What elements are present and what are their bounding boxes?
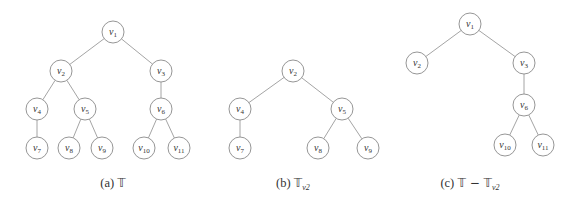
tree-panel-a: v1v2v3v4v5v6v7v8v9v10v11(a) 𝕋 xyxy=(26,21,190,190)
node-v4: v4 xyxy=(229,98,251,120)
node-v5: v5 xyxy=(74,98,96,120)
node-v1: v1 xyxy=(459,13,481,35)
edge-v1-v3 xyxy=(479,30,515,56)
node-v9: v9 xyxy=(91,137,113,159)
edge-v2-v4 xyxy=(43,80,55,99)
node-v6: v6 xyxy=(513,94,535,116)
node-v8: v8 xyxy=(58,137,80,159)
node-v6: v6 xyxy=(150,98,172,120)
edge-v2-v4 xyxy=(249,77,284,102)
caption-c: (c) 𝕋 − 𝕋v2 xyxy=(440,176,499,192)
node-v4: v4 xyxy=(26,98,48,120)
caption-b: (b) 𝕋v2 xyxy=(276,176,310,192)
node-v8: v8 xyxy=(307,137,329,159)
edge-v2-v5 xyxy=(67,80,79,99)
tree-panel-b: v2v4v5v7v8v9(b) 𝕋v2 xyxy=(229,60,379,192)
edge-v6-v10 xyxy=(148,119,156,138)
edge-v5-v9 xyxy=(89,119,97,138)
node-v7: v7 xyxy=(26,137,48,159)
edge-v6-v11 xyxy=(166,119,175,138)
node-v11: v11 xyxy=(168,137,190,159)
edge-v5-v8 xyxy=(324,118,336,138)
edge-v5-v8 xyxy=(73,119,81,138)
tree-panel-c: v1v2v3v6v10v11(c) 𝕋 − 𝕋v2 xyxy=(406,13,554,192)
edge-v6-v11 xyxy=(529,115,539,135)
node-v3: v3 xyxy=(513,52,535,74)
node-v9: v9 xyxy=(357,137,379,159)
node-v10: v10 xyxy=(133,137,155,159)
node-v2: v2 xyxy=(282,60,304,82)
node-v5: v5 xyxy=(331,98,353,120)
edge-v5-v9 xyxy=(348,118,362,139)
edge-v1-v3 xyxy=(122,39,153,64)
node-v1: v1 xyxy=(102,21,124,43)
caption-a: (a) 𝕋 xyxy=(100,176,126,190)
edge-v6-v10 xyxy=(510,115,520,135)
node-v3: v3 xyxy=(150,60,172,82)
edge-v1-v2 xyxy=(70,39,104,65)
node-v10: v10 xyxy=(494,134,516,156)
node-v7: v7 xyxy=(229,137,251,159)
node-v2: v2 xyxy=(50,60,72,82)
node-v11: v11 xyxy=(532,134,554,156)
edge-v2-v5 xyxy=(302,78,334,103)
node-v2: v2 xyxy=(406,52,428,74)
edge-v1-v2 xyxy=(426,31,461,57)
tree-diagram-canvas: v1v2v3v4v5v6v7v8v9v10v11(a) 𝕋v2v4v5v7v8v… xyxy=(0,0,579,203)
